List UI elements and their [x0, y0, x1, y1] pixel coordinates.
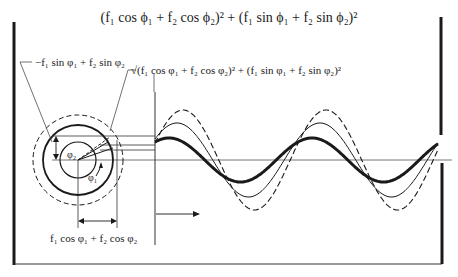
title-formula: (f₁ cos ϕ₁ + f₂ cos ϕ₂)² + (f₁ sin ϕ₁ + …: [0, 10, 458, 26]
theta-arrowhead-icon: [193, 211, 200, 217]
phasor-dashed: [78, 137, 110, 160]
magnitude-label: √(f₁ cos φ₁ + f₂ cos φ₂)² + (f₁ sin φ₁ +…: [131, 64, 341, 76]
sin-dim-arrow-down-icon: [53, 154, 59, 160]
phi1-label: φ₁: [88, 172, 97, 183]
sin-label-leader: [20, 62, 52, 142]
horizontal-component-label: f₁ cos φ₁ + f₂ cos φ₂: [50, 232, 137, 244]
magnitude-label-leader: [110, 70, 136, 131]
cos-dim-arrow-right-icon: [111, 218, 117, 224]
cos-dim-arrow-left-icon: [78, 218, 84, 224]
phasor-arc-f2: [84, 143, 90, 147]
phi2-label: φ₂: [67, 149, 76, 160]
rotation-arrowhead-icon: [99, 162, 103, 168]
sin-dim-arrow-up-icon: [53, 136, 59, 142]
vertical-component-label: −f₁ sin φ₁ + f₂ sin φ₂: [35, 56, 125, 68]
